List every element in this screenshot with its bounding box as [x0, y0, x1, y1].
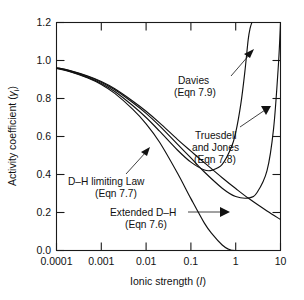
y-tick-label: 0.6	[36, 130, 51, 142]
annotation-davies-line1: Davies	[178, 75, 209, 86]
x-tick-label: 10	[275, 255, 287, 267]
y-tick-label: 1.2	[36, 16, 51, 28]
x-tick-label: 0.1	[184, 255, 199, 267]
x-tick-label: 0.0001	[40, 255, 72, 267]
annotation-extdh-line2: (Eqn 7.6)	[125, 219, 167, 230]
x-axis-title-text: Ionic strength (	[130, 275, 200, 287]
annotation-extdh-line1: Extended D–H	[110, 207, 176, 218]
annotation-dhlaw-line2: (Eqn 7.7)	[95, 188, 137, 199]
y-tick-label: 0.2	[36, 206, 51, 218]
y-tick-label: 0.8	[36, 92, 51, 104]
y-tick-label: 0.4	[36, 168, 51, 180]
chart-svg: 0.0 0.2 0.4 0.6 0.8 1.0 1.2 0.0001 0.001…	[0, 0, 304, 300]
annotation-davies-line2: (Eqn 7.9)	[174, 87, 216, 98]
y-axis-title-close: )	[6, 86, 18, 90]
annotation-truesdell-line3: (Eqn 7.8)	[194, 154, 236, 165]
x-axis-title: Ionic strength (I)	[130, 275, 206, 287]
x-tick-label: 0.001	[88, 255, 114, 267]
x-axis-title-close: )	[202, 275, 206, 287]
annotation-truesdell-line1: Truesdell	[195, 130, 237, 141]
x-tick-label: 1	[233, 255, 239, 267]
y-tick-label: 1.0	[36, 54, 51, 66]
annotation-truesdell-line2: and Jones	[192, 142, 239, 153]
y-axis-title-text: Activity coefficient (	[6, 96, 18, 186]
x-tick-label: 0.01	[136, 255, 157, 267]
annotation-dhlaw-line1: D–H limiting Law	[68, 176, 145, 187]
activity-coefficient-chart: 0.0 0.2 0.4 0.6 0.8 1.0 1.2 0.0001 0.001…	[0, 0, 304, 300]
